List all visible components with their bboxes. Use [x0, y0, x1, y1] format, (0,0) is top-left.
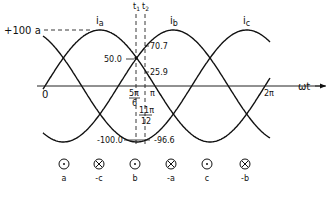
- x-axis-label: ωt: [298, 81, 310, 92]
- conductor-label: -a: [167, 174, 175, 183]
- label-ic: ic: [243, 15, 250, 28]
- conductor-row: a-cb-ac-b: [59, 159, 250, 183]
- conductor-b: b: [130, 159, 140, 183]
- t2-ib-value: 70.7: [150, 42, 168, 51]
- t2-ia-value: 25.9: [150, 68, 168, 77]
- conductor-a: a: [59, 159, 69, 183]
- label-ia: ia: [96, 15, 104, 28]
- t1-value-label: 50.0: [104, 55, 122, 64]
- conductor-label: c: [205, 174, 209, 183]
- label-ib: ib: [170, 15, 178, 28]
- t2-angle-numerator: 11π: [139, 106, 154, 115]
- t1-angle-denominator: 6: [132, 99, 137, 108]
- amplitude-label: +100 a: [4, 25, 41, 36]
- t1-intersection-dot: [134, 56, 137, 59]
- t1-angle-numerator: 5π: [129, 89, 139, 98]
- conductor-neg-c: -c: [94, 159, 104, 183]
- conductor-c: c: [202, 159, 212, 183]
- conductor-label: -b: [241, 174, 249, 183]
- conductor-neg-a: -a: [166, 159, 176, 183]
- t1-label: t1: [133, 2, 140, 12]
- pi-label: π: [150, 89, 155, 98]
- axis-arrow-icon: [320, 84, 326, 89]
- t2-angle-denominator: 12: [141, 117, 151, 126]
- two-pi-label: 2π: [264, 89, 274, 98]
- origin-label: 0: [42, 89, 48, 100]
- three-phase-diagram: ωt +100 a ia ib ic 0 π 2π t1 t2 5π 6 11π…: [0, 0, 332, 198]
- conductor-label: b: [132, 174, 137, 183]
- conductor-label: -c: [95, 174, 102, 183]
- conductor-label: a: [62, 174, 67, 183]
- neg-amplitude-label: -100.0: [97, 136, 123, 145]
- conductor-neg-b: -b: [240, 159, 250, 183]
- t2-ic-value: -96.6: [154, 136, 175, 145]
- t2-label: t2: [142, 2, 149, 12]
